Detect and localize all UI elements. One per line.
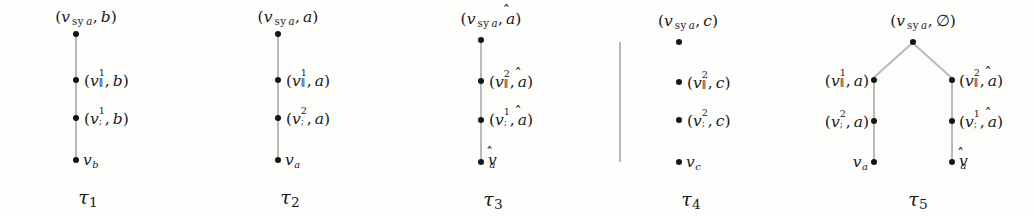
tree-tau-2: (vsya, a) (v1∥, a) (v2;, a) va 𝜏2 — [215, 0, 425, 216]
tree-1-caption: 𝜏1 — [78, 186, 98, 210]
tree-3-node-leaf — [478, 159, 484, 165]
tree-5-node-left-parallel — [871, 77, 877, 83]
tree-1-node-parallel — [73, 77, 79, 83]
tree-1-leaf-label: vb — [83, 153, 99, 170]
tree-3-node-root — [478, 37, 484, 43]
tree-5-caption: 𝜏5 — [908, 188, 928, 212]
tree-5-left-semicolon-label: (v2;, a) — [825, 115, 869, 131]
tree-4-node-leaf — [676, 159, 682, 165]
tree-4-leaf-label: vc — [686, 155, 701, 172]
tree-3-node-semicolon — [478, 117, 484, 123]
tree-5-node-right-parallel — [949, 77, 955, 83]
tree-4-root-label: (vsya, c) — [658, 14, 718, 31]
tree-5-left-parallel-label: (v1∥, a) — [825, 74, 869, 90]
tree-3-caption: 𝜏3 — [483, 188, 503, 212]
tree-diagram-figure: (vsya, b) (v1∥, b) (v1;, b) vb 𝜏1 (vsya,… — [0, 0, 1034, 216]
tree-2-root-label: (vsya, a) — [258, 10, 319, 27]
tree-2-edge-trunk — [277, 34, 279, 160]
tree-5-left-leaf-label: va — [853, 155, 868, 172]
tree-1-root-label: (vsya, b) — [55, 10, 116, 27]
tree-1-semicolon-label: (v1;, b) — [84, 112, 129, 128]
tree-1-parallel-label: (v1∥, b) — [84, 74, 129, 90]
tree-1-node-semicolon — [73, 115, 79, 121]
tree-2-caption: 𝜏2 — [280, 186, 300, 210]
tree-3-leaf-label: v̂a — [488, 153, 497, 169]
tree-4-parallel-label: (v2∥, c) — [687, 76, 731, 92]
tree-3-parallel-label: (v2∥, â) — [489, 75, 533, 91]
tree-tau-3: (vsya, â) (v2∥, â) (v1;, â) v̂a 𝜏3 — [425, 0, 635, 216]
tree-4-node-parallel — [676, 79, 682, 85]
tree-1-node-leaf — [73, 157, 79, 163]
tree-4-semicolon-label: (v2;, c) — [687, 114, 731, 130]
tree-5-node-left-semicolon — [871, 118, 877, 124]
tree-5-node-root — [910, 39, 916, 45]
tree-3-node-parallel — [478, 78, 484, 84]
tree-5-node-right-semicolon — [949, 118, 955, 124]
tree-5-node-right-leaf — [949, 159, 955, 165]
tree-5-edge-left-diagonal — [874, 42, 914, 78]
tree-tau-1: (vsya, b) (v1∥, b) (v1;, b) vb 𝜏1 — [0, 0, 210, 216]
tree-4-node-semicolon — [676, 117, 682, 123]
tree-2-node-leaf — [275, 157, 281, 163]
tree-2-parallel-label: (v1∥, a) — [286, 74, 330, 90]
tree-tau-4: (vsya, c) (v2∥, c) (v2;, c) vc 𝜏4 — [620, 0, 830, 216]
tree-2-node-semicolon — [275, 115, 281, 121]
tree-5-edge-right-diagonal — [912, 42, 952, 78]
tree-5-right-semicolon-label: (v1;, â) — [959, 115, 1003, 131]
tree-1-node-root — [73, 31, 79, 37]
tree-tau-5: (vsya, ∅) (v1∥, a) (v2;, a) va (v2∥, â)… — [800, 0, 1034, 216]
tree-4-node-root — [676, 39, 682, 45]
tree-4-caption: 𝜏4 — [681, 188, 701, 212]
tree-1-edge-trunk — [75, 34, 77, 160]
tree-3-root-label: (vsya, â) — [461, 12, 522, 29]
tree-4-edge-trunk — [619, 42, 621, 162]
tree-2-semicolon-label: (v2;, a) — [286, 112, 330, 128]
tree-2-node-parallel — [275, 77, 281, 83]
tree-5-right-parallel-label: (v2∥, â) — [959, 74, 1003, 90]
tree-2-leaf-label: va — [285, 153, 300, 170]
tree-5-root-label: (vsya, ∅) — [890, 14, 956, 31]
tree-3-semicolon-label: (v1;, â) — [489, 113, 533, 129]
tree-5-node-left-leaf — [871, 159, 877, 165]
tree-3-edge-trunk — [480, 40, 482, 162]
tree-5-right-leaf-label: v̂a — [959, 154, 968, 170]
tree-2-node-root — [275, 31, 281, 37]
